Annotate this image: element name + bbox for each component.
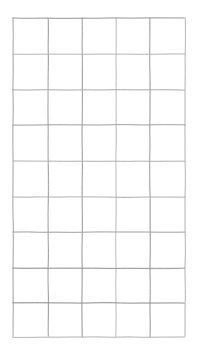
hand-drawn-grid xyxy=(0,0,198,355)
grid-line-vertical-2 xyxy=(82,18,83,337)
grid-line-horizontal-5 xyxy=(13,196,185,197)
page-canvas xyxy=(0,0,198,355)
grid-line-vertical-1 xyxy=(48,18,49,337)
grid-line-group xyxy=(13,18,186,338)
